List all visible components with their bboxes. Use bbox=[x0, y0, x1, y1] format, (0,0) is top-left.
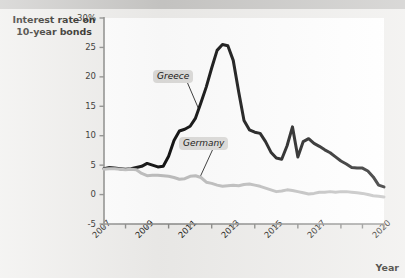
series-line-germany bbox=[104, 169, 384, 197]
series-label-germany: Germany bbox=[179, 137, 229, 151]
figure-container: Interest rate on 10-year bonds Year -505… bbox=[0, 0, 405, 278]
series-label-greece: Greece bbox=[153, 70, 193, 84]
series-layer bbox=[104, 44, 384, 196]
callout-line-greece bbox=[187, 82, 199, 109]
tick-marks bbox=[100, 18, 385, 229]
series-line-greece bbox=[104, 44, 384, 186]
callout-leader-lines bbox=[187, 82, 213, 178]
callout-line-germany bbox=[200, 149, 213, 178]
